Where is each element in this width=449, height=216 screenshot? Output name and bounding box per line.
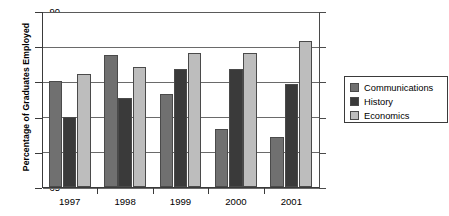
x-tick-label-1999: 1999	[156, 196, 206, 207]
right-tick-65	[319, 188, 326, 189]
bar-economics-2001[interactable]	[299, 41, 313, 187]
x-tick-2001	[264, 188, 265, 194]
bar-economics-1999[interactable]	[188, 53, 202, 187]
gridline-90	[43, 12, 319, 13]
x-tick-1999	[153, 188, 154, 194]
bar-chart: Percentage of Graduates Employed 6570758…	[0, 0, 449, 216]
y-tick-90	[35, 12, 42, 13]
gridline-85	[43, 47, 319, 48]
bar-communications-2001[interactable]	[270, 137, 284, 187]
y-tick-85	[35, 47, 42, 48]
legend-item-economics[interactable]: Economics	[350, 109, 447, 122]
y-tick-80	[35, 82, 42, 83]
x-tick-label-1997: 1997	[45, 196, 95, 207]
bar-history-1998[interactable]	[118, 98, 132, 187]
x-tick-label-1998: 1998	[100, 196, 150, 207]
legend-swatch-economics	[350, 111, 359, 120]
legend-item-history[interactable]: History	[350, 95, 447, 108]
bar-history-2000[interactable]	[229, 69, 243, 187]
bar-history-1997[interactable]	[63, 117, 77, 187]
y-tick-75	[35, 118, 42, 119]
bar-economics-2000[interactable]	[243, 53, 257, 187]
y-tick-70	[35, 153, 42, 154]
legend-label-history: History	[364, 97, 393, 107]
legend-label-communications: Communications	[364, 83, 433, 93]
plot-area	[42, 12, 319, 188]
right-tick-90	[319, 12, 326, 13]
right-tick-70	[319, 153, 326, 154]
legend-swatch-history	[350, 97, 359, 106]
legend-swatch-communications	[350, 83, 359, 92]
bar-economics-1998[interactable]	[133, 67, 147, 187]
right-tick-85	[319, 47, 326, 48]
x-tick-1998	[97, 188, 98, 194]
right-axis-spine	[319, 12, 320, 188]
x-tick-label-2000: 2000	[211, 196, 261, 207]
plot-inner	[43, 12, 319, 187]
bar-history-1999[interactable]	[174, 69, 188, 187]
y-axis-title: Percentage of Graduates Employed	[21, 7, 31, 187]
gridline-65	[43, 188, 319, 189]
y-tick-65	[35, 188, 42, 189]
right-tick-75	[319, 118, 326, 119]
legend: Communications History Economics	[344, 76, 448, 123]
x-tick-2000	[208, 188, 209, 194]
bar-economics-1997[interactable]	[77, 74, 91, 187]
bar-history-2001[interactable]	[285, 84, 299, 187]
legend-label-economics: Economics	[364, 111, 409, 121]
right-tick-80	[319, 82, 326, 83]
bar-communications-2000[interactable]	[215, 129, 229, 187]
x-tick-label-2001: 2001	[266, 196, 316, 207]
bar-communications-1998[interactable]	[104, 55, 118, 187]
legend-item-communications[interactable]: Communications	[350, 81, 447, 94]
bar-communications-1997[interactable]	[49, 81, 63, 187]
bar-communications-1999[interactable]	[160, 94, 174, 187]
